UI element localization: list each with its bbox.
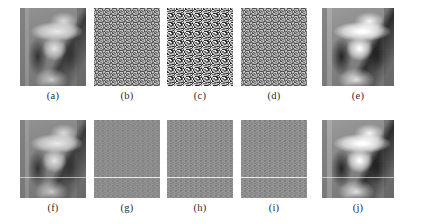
random-noise-field-c [167, 8, 233, 86]
panel-f [20, 120, 86, 198]
lena-grayscale-portrait-f [20, 120, 86, 198]
panel-j [322, 120, 394, 198]
lena-grayscale-portrait-e [322, 8, 394, 86]
panel-b [94, 8, 160, 86]
panel-h [167, 120, 233, 198]
lena-grayscale-portrait-j [322, 120, 394, 198]
random-noise-field-b [94, 8, 160, 86]
panel-caption-i: (i) [241, 202, 307, 213]
panel-c [167, 8, 233, 86]
low-amplitude-noise-field-i [241, 120, 307, 198]
panel-caption-j: (j) [322, 202, 394, 213]
figure-row-top: (a) (b) (c) (d) (e) [0, 0, 431, 112]
panel-e [322, 8, 394, 86]
low-amplitude-noise-field-g [94, 120, 160, 198]
panel-caption-f: (f) [20, 202, 86, 213]
panel-d [241, 8, 307, 86]
random-noise-field-d [241, 8, 307, 86]
low-amplitude-noise-field-h [167, 120, 233, 198]
panel-caption-b: (b) [94, 90, 160, 101]
figure-row-bottom: (f) (g) (h) (i) (j) [0, 112, 431, 224]
panel-i [241, 120, 307, 198]
image-grid-figure: (a) (b) (c) (d) (e) (f) (g) [0, 0, 431, 224]
panel-a [20, 8, 86, 86]
panel-caption-e: (e) [322, 90, 394, 101]
panel-caption-a: (a) [20, 90, 86, 101]
panel-g [94, 120, 160, 198]
panel-caption-d: (d) [241, 90, 307, 101]
panel-caption-h: (h) [167, 202, 233, 213]
panel-caption-c: (c) [167, 90, 233, 101]
panel-caption-g: (g) [94, 202, 160, 213]
lena-grayscale-portrait-a [20, 8, 86, 86]
